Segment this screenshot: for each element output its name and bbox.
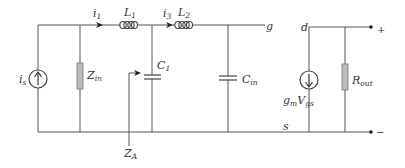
source-node-label: s bbox=[283, 120, 289, 133]
minus-terminal bbox=[369, 130, 373, 134]
i3-label: i3 bbox=[163, 7, 172, 21]
circuit-diagram: is Zin i1 L1 i3 L2 C1 ZA g Cin d bbox=[0, 0, 405, 168]
i1-label: i1 bbox=[93, 7, 101, 21]
rout-resistor bbox=[342, 64, 348, 90]
zin-label: Zin bbox=[86, 69, 102, 83]
is-label: is bbox=[19, 73, 27, 87]
za-label: ZA bbox=[123, 147, 138, 161]
l1-label: L1 bbox=[123, 6, 136, 20]
plus-terminal bbox=[369, 25, 373, 29]
c1-label: C1 bbox=[157, 59, 170, 73]
current-source-is bbox=[29, 70, 47, 88]
rout-label: Rout bbox=[351, 74, 374, 88]
capacitor-c1 bbox=[144, 75, 161, 79]
drain-node-label: d bbox=[301, 21, 308, 34]
dependent-current-source bbox=[300, 71, 318, 89]
inductor-l1 bbox=[120, 22, 138, 29]
inductor-l2 bbox=[175, 22, 193, 29]
l2-label: L2 bbox=[177, 6, 190, 20]
cin-label: Cin bbox=[242, 73, 258, 87]
minus-label: − bbox=[376, 127, 384, 138]
gate-node-label: g bbox=[266, 20, 273, 33]
plus-label: + bbox=[377, 24, 385, 35]
wires bbox=[38, 25, 371, 146]
capacitor-cin bbox=[219, 76, 237, 80]
zin-resistor bbox=[77, 63, 83, 89]
